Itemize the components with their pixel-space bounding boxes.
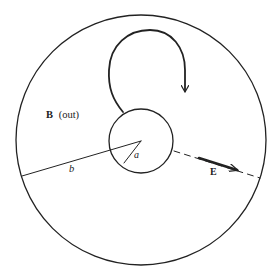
label-b-field: B (out) — [46, 109, 80, 121]
loop-arrow — [109, 30, 185, 112]
coaxial-diagram: B (out) b a E — [0, 0, 273, 280]
label-e-field: E — [210, 166, 217, 177]
radius-b-line — [22, 141, 141, 176]
label-radius-a: a — [134, 149, 139, 160]
label-b-symbol: B — [46, 109, 53, 120]
label-b-direction: (out) — [59, 109, 80, 121]
e-field-arrow — [199, 158, 237, 170]
label-radius-b: b — [69, 163, 74, 174]
outer-conductor-circle — [16, 15, 266, 265]
